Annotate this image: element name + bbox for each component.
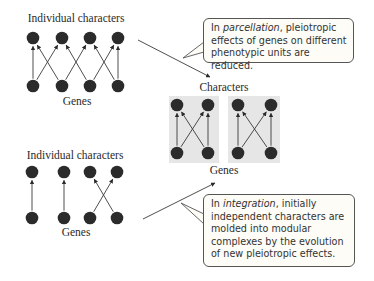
callout-prefix: In	[211, 22, 223, 33]
gene-dot	[84, 80, 97, 93]
character-dot	[58, 166, 71, 179]
callout-term-integration: integration	[223, 198, 276, 209]
character-dot	[112, 32, 125, 45]
genes-label: Genes	[62, 226, 91, 238]
gene-dot	[232, 147, 245, 160]
gene-dot	[171, 147, 184, 160]
character-dot	[111, 166, 124, 179]
gene-dot	[112, 80, 125, 93]
genes-label: Genes	[63, 95, 92, 107]
module-box	[169, 96, 219, 163]
character-dot	[265, 99, 278, 112]
genes-label: Genes	[210, 164, 239, 176]
callout-tail-bottom	[181, 203, 204, 224]
character-dot	[202, 99, 215, 112]
integration-panel: Individual characters Genes	[26, 149, 124, 238]
gene-dot	[202, 147, 215, 160]
gene-dot	[265, 147, 278, 160]
callout-tail-top	[183, 42, 204, 58]
integration-callout: In integration, initially independent ch…	[203, 194, 355, 267]
gene-dot	[84, 212, 97, 225]
callout-prefix: In	[211, 198, 223, 209]
modular-panel: Characters Genes	[169, 81, 280, 176]
gene-dot	[111, 212, 124, 225]
character-dot	[84, 32, 97, 45]
module-boxes	[169, 96, 280, 163]
gene-dot	[56, 80, 69, 93]
gene-dot	[58, 212, 71, 225]
character-dot	[232, 99, 245, 112]
characters-label: Characters	[199, 81, 249, 93]
individual-characters-label: Individual characters	[28, 12, 125, 24]
character-dot	[27, 32, 40, 45]
character-and-gene-dots	[26, 166, 124, 225]
module-box	[228, 96, 280, 163]
parcellation-panel: Individual characters Genes	[27, 12, 125, 107]
gene-character-arrows	[33, 45, 118, 80]
character-dot	[171, 99, 184, 112]
gene-dot	[27, 80, 40, 93]
character-dot	[26, 166, 39, 179]
callout-term-parcellation: parcellation	[223, 22, 280, 33]
gene-character-arrows	[32, 179, 113, 212]
parcellation-callout: In parcellation, pleiotropic effects of …	[203, 18, 354, 63]
character-dot	[56, 32, 69, 45]
individual-characters-label: Individual characters	[27, 149, 124, 161]
gene-dot	[26, 212, 39, 225]
character-dot	[84, 166, 97, 179]
